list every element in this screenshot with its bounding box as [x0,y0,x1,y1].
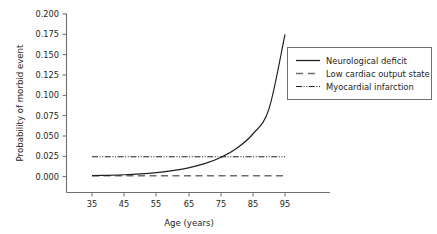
y-tick-label: 0.125 [36,70,59,80]
legend-label-low-cardiac-output-state: Low cardiac output state [326,69,430,79]
y-axis-ticks [63,14,67,177]
y-tick-label: 0.200 [36,9,59,19]
legend-label-myocardial-infarction: Myocardial infarction [326,82,414,92]
y-axis-tick-labels: 0.000 0.025 0.050 0.075 0.100 0.125 0.15… [36,9,59,182]
x-axis-label: Age (years) [164,218,214,228]
x-tick-label: 65 [184,199,194,209]
series-line-neurological-deficit [92,34,285,175]
x-tick-label: 45 [119,199,129,209]
x-tick-label: 35 [87,199,97,209]
y-tick-label: 0.150 [36,50,59,60]
legend: Neurological deficit Low cardiac output … [288,48,432,100]
x-tick-label: 75 [216,199,226,209]
y-tick-label: 0.000 [36,172,59,182]
y-tick-label: 0.075 [36,111,59,121]
y-tick-label: 0.025 [36,151,59,161]
y-axis-label: Probability of morbid event [15,44,25,161]
x-tick-label: 55 [151,199,161,209]
x-axis-tick-labels: 35 45 55 65 75 85 95 [87,199,290,209]
x-tick-label: 85 [248,199,258,209]
chart-svg: 0.000 0.025 0.050 0.075 0.100 0.125 0.15… [0,0,437,234]
chart-figure: 0.000 0.025 0.050 0.075 0.100 0.125 0.15… [0,0,437,234]
y-tick-label: 0.175 [36,29,59,39]
y-tick-label: 0.100 [36,90,59,100]
legend-label-neurological-deficit: Neurological deficit [326,56,408,66]
x-tick-label: 95 [280,199,290,209]
x-axis-ticks [92,193,285,197]
y-tick-label: 0.050 [36,131,59,141]
